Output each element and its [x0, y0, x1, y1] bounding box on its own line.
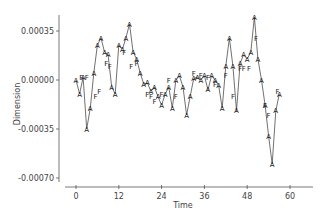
- marker-a: A: [95, 42, 100, 50]
- marker-f: F: [152, 98, 156, 106]
- marker-a: A: [177, 72, 182, 80]
- marker-f: F: [122, 49, 126, 57]
- marker-a: A: [234, 107, 239, 115]
- marker-a: A: [206, 86, 211, 94]
- marker-f: F: [192, 70, 196, 78]
- marker-a: A: [256, 56, 261, 64]
- marker-f: F: [79, 74, 83, 82]
- series-line: [76, 17, 279, 164]
- marker-a: A: [74, 77, 79, 85]
- marker-a: A: [181, 84, 186, 92]
- marker-f: F: [160, 91, 164, 99]
- marker-a: A: [166, 84, 171, 92]
- marker-a: A: [188, 93, 193, 101]
- x-tick-label: 36: [199, 192, 209, 201]
- marker-a: A: [99, 35, 104, 43]
- marker-f: F: [267, 112, 271, 120]
- marker-a: A: [223, 63, 228, 71]
- x-axis-label: Time: [172, 201, 193, 210]
- marker-f: F: [97, 88, 101, 96]
- marker-f: F: [135, 60, 139, 68]
- marker-a: A: [245, 56, 250, 64]
- line-chart: 0.000350.00000-0.00035-0.00070 012243648…: [0, 0, 328, 220]
- marker-a: A: [145, 79, 150, 87]
- marker-a: A: [227, 35, 232, 43]
- marker-f: F: [108, 63, 112, 71]
- marker-a: A: [152, 84, 157, 92]
- marker-f: F: [206, 74, 210, 82]
- marker-a: A: [252, 14, 257, 22]
- marker-f: F: [167, 77, 171, 85]
- y-tick-label: 0.00000: [21, 76, 54, 85]
- marker-a: A: [124, 35, 129, 43]
- y-axis-label: Dimension: [13, 83, 22, 126]
- marker-a: A: [127, 21, 132, 29]
- marker-a: A: [270, 161, 275, 169]
- marker-f: F: [247, 65, 251, 73]
- marker-a: A: [138, 70, 143, 78]
- marker-a: A: [77, 91, 82, 99]
- marker-a: A: [259, 77, 264, 85]
- marker-f: F: [254, 35, 258, 43]
- marker-f: F: [242, 65, 246, 73]
- marker-a: A: [88, 105, 93, 113]
- y-tick-label: -0.00035: [18, 125, 54, 134]
- marker-a: A: [220, 105, 225, 113]
- marker-f: F: [224, 72, 228, 80]
- marker-a: A: [266, 133, 271, 141]
- marker-f: F: [263, 102, 267, 110]
- marker-f: F: [85, 74, 89, 82]
- marker-f: F: [213, 81, 217, 89]
- y-axis: 0.000350.00000-0.00035-0.00070: [18, 15, 59, 183]
- marker-f: F: [199, 72, 203, 80]
- marker-a: A: [84, 126, 89, 134]
- x-tick-label: 48: [242, 192, 252, 201]
- marker-a: A: [273, 107, 278, 115]
- marker-a: A: [184, 112, 189, 120]
- marker-f: F: [174, 93, 178, 101]
- marker-f: F: [129, 63, 133, 71]
- marker-f: F: [231, 93, 235, 101]
- marker-a: A: [91, 70, 96, 78]
- x-tick-label: 24: [157, 192, 167, 201]
- marker-a: A: [248, 49, 253, 57]
- x-tick-label: 0: [73, 192, 78, 201]
- plot-area: AAAAAAAAAAAAAAAAAAAAAAAAAAAAAAAAAAAAAAAA…: [74, 14, 282, 169]
- x-axis: 01224364860: [65, 185, 313, 201]
- marker-a: A: [170, 105, 175, 113]
- marker-f: F: [276, 88, 280, 96]
- marker-a: A: [113, 91, 118, 99]
- marker-a: A: [106, 51, 111, 59]
- marker-a: A: [159, 102, 164, 110]
- x-tick-label: 12: [114, 192, 124, 201]
- y-tick-label: 0.00035: [21, 27, 54, 36]
- x-tick-label: 60: [285, 192, 295, 201]
- marker-a: A: [231, 63, 236, 71]
- y-tick-label: -0.00070: [18, 174, 54, 183]
